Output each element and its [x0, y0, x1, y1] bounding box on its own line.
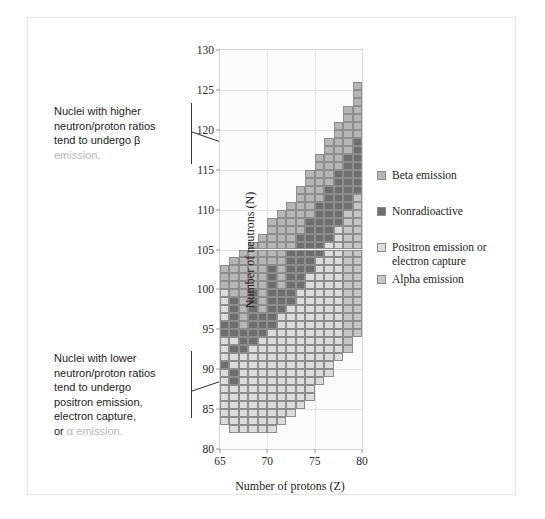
nuclide-cell	[248, 409, 257, 417]
nuclide-cell	[267, 329, 276, 337]
nuclide-cell	[239, 345, 248, 353]
legend-item-beta[interactable]: Beta emission	[377, 169, 457, 183]
nuclide-cell	[296, 250, 305, 258]
nuclide-cell	[286, 337, 295, 345]
nuclide-cell	[258, 369, 267, 377]
legend-item-stable[interactable]: Nonradioactive	[377, 205, 463, 219]
nuclide-cell	[334, 202, 343, 210]
nuclide-cell	[353, 305, 362, 313]
nuclide-cell	[296, 313, 305, 321]
legend-item-positron[interactable]: Positron emission orelectron capture	[377, 241, 487, 268]
nuclide-cell	[267, 297, 276, 305]
nuclide-cell	[315, 305, 324, 313]
nuclide-cell	[229, 305, 238, 313]
nuclide-cell	[239, 313, 248, 321]
nuclide-cell	[258, 425, 267, 433]
nuclide-cell	[267, 337, 276, 345]
nuclide-cell	[220, 385, 229, 393]
nuclide-cell	[220, 393, 229, 401]
nuclide-cell	[286, 401, 295, 409]
nuclide-cell	[239, 377, 248, 385]
nuclide-cell	[324, 265, 333, 273]
nuclide-cell	[229, 289, 238, 297]
nuclide-cell	[258, 234, 267, 242]
nuclide-cell	[277, 281, 286, 289]
annotation-top-line4: emission.	[54, 149, 100, 161]
nuclide-cell	[334, 186, 343, 194]
nuclide-cell	[248, 345, 257, 353]
nuclide-cell	[305, 313, 314, 321]
nuclide-cell	[296, 202, 305, 210]
annotation-beta-emission: Nuclei with higher neutron/proton ratios…	[54, 104, 182, 162]
nuclide-cell	[258, 250, 267, 258]
x-tick-label: 70	[262, 455, 274, 467]
y-tick-mark	[216, 249, 220, 250]
nuclide-cell	[353, 186, 362, 194]
nuclide-cell	[353, 329, 362, 337]
annotation-bottom-line3: tend to undergo	[54, 381, 131, 393]
nuclide-cell	[277, 401, 286, 409]
nuclide-cell	[324, 345, 333, 353]
nuclide-cell	[220, 289, 229, 297]
nuclide-cell	[334, 178, 343, 186]
nuclide-cell	[343, 130, 352, 138]
nuclide-cell	[353, 82, 362, 90]
nuclide-cell	[334, 250, 343, 258]
nuclide-cell	[229, 353, 238, 361]
nuclide-cell	[353, 218, 362, 226]
legend-label: Beta emission	[392, 169, 457, 183]
nuclide-cell	[286, 234, 295, 242]
nuclide-cell	[248, 385, 257, 393]
legend-swatch-icon	[377, 275, 386, 284]
nuclide-cell	[286, 273, 295, 281]
nuclide-cell	[267, 417, 276, 425]
nuclide-cell	[267, 313, 276, 321]
nuclide-cell	[305, 210, 314, 218]
x-tick-label: 75	[309, 455, 321, 467]
nuclide-cell	[267, 242, 276, 250]
nuclide-cell	[220, 361, 229, 369]
nuclide-cell	[267, 369, 276, 377]
annotation-top-line3: tend to undergo β	[54, 134, 140, 146]
nuclide-cell	[277, 297, 286, 305]
nuclide-cell	[239, 417, 248, 425]
nuclide-cell	[277, 393, 286, 401]
nuclide-cell	[334, 265, 343, 273]
nuclide-cell	[315, 313, 324, 321]
nuclide-cell	[296, 297, 305, 305]
x-tick-mark	[220, 449, 221, 453]
nuclide-cell	[343, 281, 352, 289]
nuclide-cell	[267, 257, 276, 265]
nuclide-cell	[296, 234, 305, 242]
nuclide-cell	[315, 337, 324, 345]
nuclide-cell	[315, 377, 324, 385]
nuclide-cell	[353, 146, 362, 154]
nuclide-cell	[286, 226, 295, 234]
nuclide-cell	[277, 289, 286, 297]
nuclide-cell	[343, 234, 352, 242]
nuclide-cell	[334, 321, 343, 329]
nuclide-cell	[220, 369, 229, 377]
legend-label: Alpha emission	[392, 273, 464, 287]
annotation-bottom-line6-prefix: or	[54, 425, 67, 437]
nuclide-cell	[258, 417, 267, 425]
legend-item-alpha[interactable]: Alpha emission	[377, 273, 464, 287]
nuclide-cell	[353, 289, 362, 297]
nuclide-cell	[324, 138, 333, 146]
nuclide-cell-layer	[220, 50, 362, 449]
nuclide-cell	[334, 337, 343, 345]
nuclide-cell	[258, 321, 267, 329]
nuclide-cell	[305, 321, 314, 329]
y-tick-label: 80	[203, 443, 215, 455]
nuclide-cell	[305, 377, 314, 385]
nuclide-cell	[258, 313, 267, 321]
nuclide-cell	[353, 122, 362, 130]
nuclide-cell	[296, 265, 305, 273]
nuclide-cell	[229, 329, 238, 337]
x-tick-mark	[362, 449, 363, 453]
y-tick-label: 95	[203, 323, 215, 335]
nuclide-cell	[296, 377, 305, 385]
nuclide-cell	[267, 353, 276, 361]
nuclide-cell	[277, 218, 286, 226]
nuclide-cell	[286, 361, 295, 369]
